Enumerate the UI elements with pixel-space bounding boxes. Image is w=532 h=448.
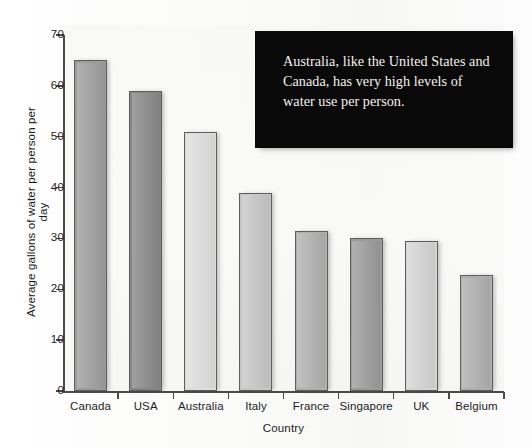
bar-fill <box>407 243 435 388</box>
x-axis-tick-label: Singapore <box>339 400 394 412</box>
bar-singapore <box>350 238 383 391</box>
annotation-callout-box: Australia, like the United States and Ca… <box>255 31 513 148</box>
x-axis-tick-label: Italy <box>228 400 283 412</box>
y-axis-tick-label-wrap: 0 <box>20 384 64 398</box>
x-axis-tick-mark <box>283 392 284 399</box>
x-axis-tick-mark <box>228 392 229 399</box>
x-axis-tick-mark <box>173 392 174 399</box>
x-axis-tick-mark <box>338 392 339 399</box>
bar-fill <box>132 93 160 388</box>
y-axis-tick-label: 10 <box>38 333 64 345</box>
y-axis-title: Average gallons of water per person per … <box>25 97 49 327</box>
y-axis-tick-label-wrap: 60 <box>20 79 64 93</box>
y-axis-tick-label-wrap: 70 <box>20 28 64 42</box>
y-axis-tick-label: 0 <box>38 384 64 396</box>
bar-fill <box>462 278 490 389</box>
x-axis-tick-label: Belgium <box>449 400 504 412</box>
chart-page: 010203040506070 CanadaUSAAustraliaItalyF… <box>0 0 532 448</box>
bar-usa <box>129 91 162 391</box>
bar-uk <box>405 241 438 391</box>
x-axis-title: Country <box>63 422 504 434</box>
y-axis-tick-label: 60 <box>38 79 64 91</box>
bar-fill <box>77 63 105 389</box>
bar-fill <box>297 233 325 388</box>
x-axis-tick-label: Canada <box>63 400 118 412</box>
bar-italy <box>239 193 272 391</box>
bar-canada <box>74 60 107 391</box>
x-axis-tick-mark <box>117 392 118 399</box>
annotation-text: Australia, like the United States and Ca… <box>283 51 495 111</box>
y-axis-tick-label-wrap: 10 <box>20 333 64 347</box>
bar-belgium <box>460 275 493 391</box>
bar-australia <box>184 132 217 391</box>
x-axis-tick-label: Australia <box>173 400 228 412</box>
bar-fill <box>242 195 270 388</box>
x-axis-tick-mark <box>393 392 394 399</box>
bar-france <box>295 231 328 391</box>
x-axis-tick-mark <box>503 392 504 399</box>
x-axis-tick-label: France <box>284 400 339 412</box>
x-axis-tick-label: USA <box>118 400 173 412</box>
x-axis-tick-label: UK <box>394 400 449 412</box>
y-axis-tick-label: 70 <box>38 28 64 40</box>
x-axis-tick-mark <box>448 392 449 399</box>
bar-fill <box>187 134 215 388</box>
bar-fill <box>352 241 380 389</box>
